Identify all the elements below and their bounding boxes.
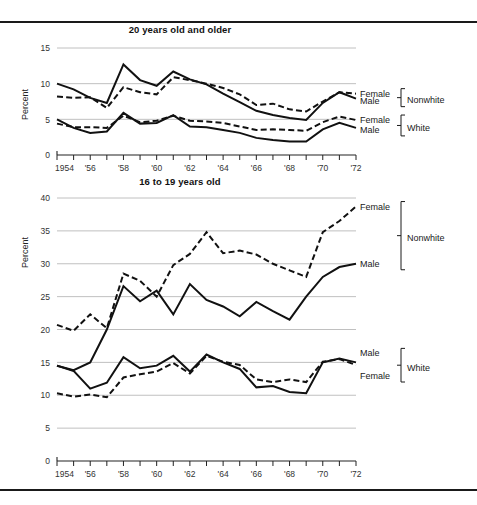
y-tick-label: 15	[41, 358, 51, 368]
x-tick-label: 1954	[55, 469, 74, 479]
legend-label-white-female: Female	[360, 371, 390, 381]
x-tick-label: '64	[218, 163, 229, 173]
y-axis-label-upper: Percent	[20, 89, 30, 120]
bottom-rule	[0, 489, 477, 491]
y-tick-label: 5	[45, 115, 50, 125]
x-tick-label: '58	[118, 163, 129, 173]
group-bracket-nonwhite	[401, 89, 405, 107]
series-line	[57, 116, 356, 131]
chart-lower-svg: 05101520253035401954'56'58'60'62'64'66'6…	[0, 176, 477, 488]
y-tick-label: 10	[41, 79, 51, 89]
x-tick-label: '56	[85, 163, 96, 173]
x-tick-label: '68	[284, 469, 295, 479]
group-label-nonwhite: Nonwhite	[407, 233, 445, 243]
y-axis-label-lower: Percent	[20, 237, 30, 268]
series-line	[57, 64, 356, 120]
group-label-white: White	[407, 123, 430, 133]
x-tick-label: '62	[184, 163, 195, 173]
x-tick-label: '68	[284, 163, 295, 173]
group-label-nonwhite: Nonwhite	[407, 95, 445, 105]
y-tick-label: 5	[45, 423, 50, 433]
chart-panel-16-to-19: 16 to 19 years old 05101520253035401954'…	[0, 176, 477, 488]
x-tick-label: '70	[317, 469, 328, 479]
legend-label-nonwhite-male: Male	[360, 96, 380, 106]
x-tick-label: '72	[350, 469, 361, 479]
x-tick-label: '64	[218, 469, 229, 479]
x-tick-label: '66	[251, 469, 262, 479]
x-tick-label: 1954	[55, 163, 74, 173]
y-tick-label: 35	[41, 226, 51, 236]
legend-label-white-male: Male	[360, 348, 380, 358]
x-tick-label: '56	[85, 469, 96, 479]
y-tick-label: 0	[45, 150, 50, 160]
y-tick-label: 30	[41, 259, 51, 269]
chart-upper-svg: 0510151954'56'58'60'62'64'66'68'70'72Fem…	[0, 24, 477, 176]
y-tick-label: 15	[41, 43, 51, 53]
series-line	[57, 354, 356, 393]
group-label-white: White	[407, 363, 430, 373]
y-tick-label: 20	[41, 325, 51, 335]
group-bracket-white	[401, 115, 405, 136]
figure-root: 20 years old and older 0510151954'56'58'…	[0, 0, 477, 505]
top-rule	[0, 21, 477, 23]
y-tick-label: 10	[41, 390, 51, 400]
group-bracket-white	[401, 348, 405, 382]
series-line	[57, 77, 356, 111]
legend-label-nonwhite-male: Male	[360, 259, 380, 269]
y-tick-label: 0	[45, 456, 50, 466]
x-tick-label: '62	[184, 469, 195, 479]
x-tick-label: '72	[350, 163, 361, 173]
x-tick-label: '66	[251, 163, 262, 173]
group-bracket-nonwhite	[401, 202, 405, 270]
x-tick-label: '58	[118, 469, 129, 479]
chart-panel-20-and-older: 20 years old and older 0510151954'56'58'…	[0, 24, 477, 176]
series-line	[57, 207, 356, 331]
y-tick-label: 25	[41, 292, 51, 302]
x-tick-label: '60	[151, 163, 162, 173]
y-tick-label: 40	[41, 193, 51, 203]
x-tick-label: '70	[317, 163, 328, 173]
legend-label-white-female: Female	[360, 115, 390, 125]
legend-label-white-male: Male	[360, 125, 380, 135]
legend-label-nonwhite-female: Female	[360, 202, 390, 212]
x-tick-label: '60	[151, 469, 162, 479]
